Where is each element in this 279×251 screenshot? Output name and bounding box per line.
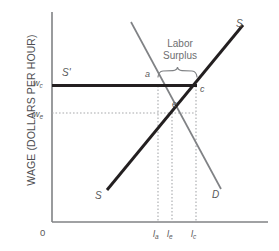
x-tick-la: la (153, 230, 159, 240)
labor-surplus-annotation: LaborSurplus (152, 38, 208, 61)
x-tick-le: le (167, 230, 173, 240)
point-label-c: c (200, 85, 205, 94)
wage-floor-curve-label: S' (62, 68, 71, 78)
labor-surplus-brace (158, 67, 197, 77)
origin-label: 0 (40, 228, 45, 238)
supply-curve-label-upper: S (236, 19, 243, 29)
labor-market-wage-floor-figure: WAGE (DOLLARS PER HOUR) 0 wc we S' S S D… (0, 0, 279, 251)
y-tick-wage-floor: wc (33, 79, 43, 89)
x-tick-lc: lc (191, 230, 196, 240)
supply-curve-label-lower: S (95, 191, 102, 201)
chart-canvas (0, 0, 279, 251)
point-label-e: e (172, 100, 177, 109)
point-label-a: a (145, 70, 150, 79)
y-tick-wage-equilibrium: we (33, 110, 43, 120)
demand-curve-label: D (212, 190, 219, 200)
